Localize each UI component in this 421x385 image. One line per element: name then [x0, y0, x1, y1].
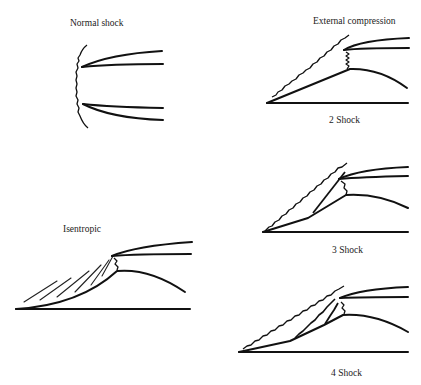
panel-normal-shock: Normal shock	[70, 18, 163, 128]
panel-three-shock: 3 Shock	[263, 163, 408, 255]
label-normal-shock: Normal shock	[70, 18, 124, 28]
label-4-shock: 4 Shock	[331, 368, 362, 378]
ramp-surface	[263, 195, 408, 232]
panel-isentropic: Isentropic	[16, 224, 192, 309]
compression-waves	[24, 256, 113, 302]
inlet-diagram: Normal shock External compression 2 Shoc…	[0, 0, 421, 385]
oblique-shock	[272, 35, 349, 97]
ramp-surface	[16, 271, 185, 309]
ramp-surface	[239, 315, 408, 352]
compression-wave	[102, 256, 113, 276]
terminal-normal-shock	[341, 181, 347, 195]
cowl-inner	[340, 297, 408, 298]
terminal-normal-shock	[114, 258, 118, 270]
terminal-normal-shock	[341, 302, 345, 314]
cowl-inner	[344, 48, 409, 50]
normal-shock-wave	[76, 45, 88, 128]
oblique-shock-1	[265, 163, 347, 231]
label-3-shock: 3 Shock	[332, 245, 363, 255]
ramp-surface	[267, 69, 407, 103]
cowl-inner	[112, 254, 191, 256]
label-2-shock: 2 Shock	[329, 115, 360, 125]
panel-four-shock: 4 Shock	[239, 286, 408, 378]
label-external-compression: External compression	[313, 16, 396, 26]
upper-cowl-inner	[82, 64, 163, 67]
panel-two-shock: External compression 2 Shock	[267, 16, 409, 125]
terminal-normal-shock	[346, 52, 349, 69]
cowl-inner	[339, 176, 408, 179]
lower-cowl-inner	[83, 104, 163, 108]
label-isentropic: Isentropic	[63, 224, 101, 234]
